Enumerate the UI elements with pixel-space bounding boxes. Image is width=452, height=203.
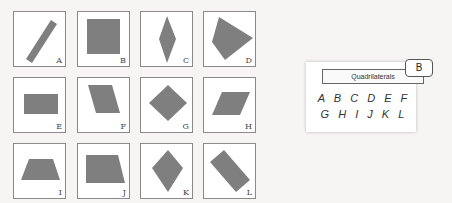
- letters-row-1: A B C D E F: [290, 92, 438, 104]
- card-label: C: [183, 56, 189, 65]
- card-label: J: [123, 188, 126, 197]
- card-i[interactable]: I: [13, 143, 66, 199]
- card-label: K: [183, 188, 189, 197]
- card-g[interactable]: G: [140, 77, 193, 133]
- card-h[interactable]: H: [203, 77, 256, 133]
- card-e[interactable]: E: [13, 77, 66, 133]
- card-label: G: [183, 122, 189, 131]
- card-label: E: [56, 122, 62, 131]
- card-b[interactable]: B: [77, 11, 130, 67]
- card-c[interactable]: C: [140, 11, 193, 67]
- card-label: D: [246, 56, 252, 65]
- card-j[interactable]: J: [77, 143, 130, 199]
- card-d[interactable]: D: [203, 11, 256, 67]
- card-label: A: [56, 56, 62, 65]
- card-label: B: [120, 56, 126, 65]
- card-l[interactable]: L: [203, 143, 256, 199]
- card-label: F: [120, 122, 126, 131]
- card-k[interactable]: K: [140, 143, 193, 199]
- card-f[interactable]: F: [77, 77, 130, 133]
- answer-badge[interactable]: B: [405, 59, 433, 77]
- card-label: H: [245, 122, 252, 131]
- letters-row-2: G H I J K L: [290, 108, 438, 120]
- card-a[interactable]: A: [13, 11, 66, 67]
- card-label: I: [59, 188, 62, 197]
- card-label: L: [247, 188, 252, 197]
